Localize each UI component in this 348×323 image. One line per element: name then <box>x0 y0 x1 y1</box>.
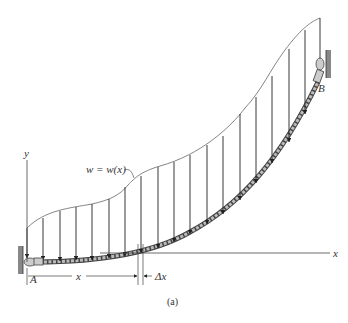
dimension-dx-label: Δx <box>154 270 166 282</box>
load-arrows <box>27 18 320 261</box>
support-b <box>313 50 331 83</box>
label-point-a: A <box>29 273 37 285</box>
support-a <box>18 246 43 274</box>
load-curve <box>27 18 320 228</box>
cable <box>35 82 318 262</box>
label-point-b: B <box>318 82 325 94</box>
y-axis-label: y <box>23 147 29 159</box>
figure-caption: (a) <box>167 296 178 308</box>
x-axis-label: x <box>332 247 338 259</box>
cable-diagram: A B y x w = w(x) x Δx (a) <box>0 0 348 323</box>
load-function-label: w = w(x) <box>86 163 126 176</box>
dimension-x-label: x <box>75 270 81 282</box>
